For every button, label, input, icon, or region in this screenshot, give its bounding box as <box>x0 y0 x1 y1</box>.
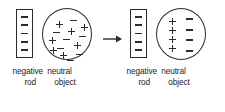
minus-charge-icon <box>63 39 70 41</box>
plus-charge-icon <box>169 36 176 43</box>
minus-charge-icon <box>57 48 64 50</box>
label-line-1: neutral <box>47 66 72 76</box>
neutral-object-after <box>156 8 206 60</box>
minus-charge-icon <box>21 41 28 43</box>
minus-charge-icon <box>53 32 60 34</box>
plus-charge-icon <box>68 28 75 35</box>
plus-charge-icon <box>49 37 56 44</box>
minus-charge-icon <box>186 50 193 52</box>
minus-charge-icon <box>67 60 74 62</box>
minus-charge-icon <box>21 49 28 51</box>
label-line-2: rod <box>0 77 43 88</box>
label-negative-rod-before: negative rod <box>0 66 45 100</box>
panel-after: negative rod neutral object <box>114 0 217 112</box>
label-line-2: rod <box>114 77 157 88</box>
minus-charge-icon <box>135 24 142 26</box>
minus-charge-icon <box>186 18 193 20</box>
negative-rod-before <box>16 9 33 58</box>
minus-charge-icon <box>186 29 193 31</box>
labels-before: negative rod neutral object <box>0 66 103 100</box>
minus-charge-icon <box>135 33 142 35</box>
minus-charge-icon <box>186 39 193 41</box>
panel-before: negative rod neutral object <box>0 0 103 112</box>
label-neutral-object-before: neutral object <box>45 66 103 100</box>
minus-charge-icon <box>79 36 86 38</box>
label-negative-rod-after: negative rod <box>114 66 159 100</box>
positive-charge-column <box>169 18 176 52</box>
plus-charge-icon <box>169 45 176 52</box>
diagram-canvas: negative rod neutral object <box>0 0 225 112</box>
label-line-1: negative <box>127 66 158 76</box>
label-line-1: neutral <box>161 66 186 76</box>
label-line-2: object <box>161 77 217 88</box>
minus-charge-icon <box>135 41 142 43</box>
plus-charge-icon <box>60 52 67 59</box>
neutral-object-before <box>42 8 92 60</box>
minus-charge-icon <box>21 16 28 18</box>
label-neutral-object-after: neutral object <box>159 66 217 100</box>
minus-charge-icon <box>135 49 142 51</box>
plus-charge-icon <box>169 18 176 25</box>
label-line-2: object <box>47 77 103 88</box>
minus-charge-icon <box>21 24 28 26</box>
minus-charge-icon <box>70 20 77 22</box>
rod-charge-group <box>17 10 32 57</box>
minus-charge-icon <box>21 33 28 35</box>
plus-charge-icon <box>56 21 63 28</box>
plus-charge-icon <box>50 47 57 54</box>
label-line-1: negative <box>13 66 44 76</box>
labels-after: negative rod neutral object <box>114 66 217 100</box>
plus-charge-icon <box>81 24 88 31</box>
minus-charge-icon <box>135 16 142 18</box>
negative-charge-column <box>186 18 193 52</box>
plus-charge-icon <box>74 42 81 49</box>
rod-charge-group <box>131 10 146 57</box>
plus-charge-icon <box>169 27 176 34</box>
minus-charge-icon <box>76 54 83 56</box>
negative-rod-after <box>130 9 147 58</box>
